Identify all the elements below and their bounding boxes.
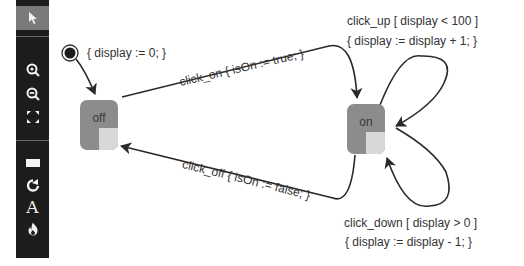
click-up-transition[interactable] [380,56,447,126]
toolbar: A [16,0,49,258]
click-down-guard-label: click_down [ display > 0 ] [344,217,477,229]
fit-screen-icon [26,110,40,124]
text-icon: A [26,199,38,216]
add-transition-button[interactable] [16,173,49,197]
state-off-quadrant [99,128,118,150]
fire-icon [27,222,39,236]
zoom-in-icon [26,63,40,77]
fire-event-button[interactable] [16,217,49,241]
click-down-transition[interactable] [387,128,449,206]
state-off[interactable]: off [80,100,118,150]
redirect-arrow-icon [26,178,40,192]
state-off-label: off [80,111,118,125]
diagram-canvas[interactable]: off on { display := 0; } click_on { isOn… [49,0,524,266]
zoom-out-icon [26,87,40,101]
toolbar-divider [16,36,49,37]
state-on[interactable]: on [347,104,385,154]
rectangle-icon [26,158,40,168]
add-state-button[interactable] [16,151,49,175]
click-up-action-label: { display := display + 1; } [347,35,477,47]
fit-screen-button[interactable] [16,105,49,129]
initial-state[interactable] [62,45,78,61]
toolbar-divider [16,140,49,141]
pointer-icon [27,11,39,25]
state-on-quadrant [366,132,385,154]
click-down-action-label: { display := display - 1; } [345,236,472,248]
add-text-button[interactable]: A [16,195,49,219]
zoom-in-button[interactable] [16,58,49,82]
zoom-out-button[interactable] [16,82,49,106]
initial-action-label: { display := 0; } [87,47,166,59]
select-tool-button[interactable] [16,6,49,30]
state-on-label: on [347,115,385,129]
click-up-guard-label: click_up [ display < 100 ] [347,15,478,27]
initial-transition[interactable] [76,59,95,94]
